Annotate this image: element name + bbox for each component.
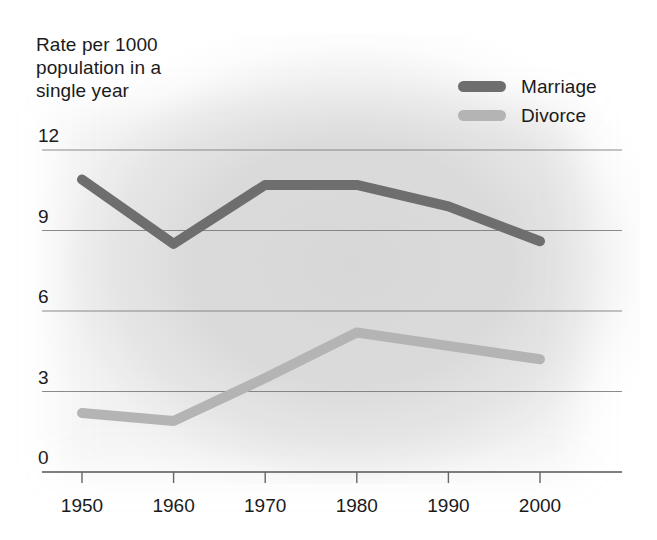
x-tick-label-1960: 1960: [139, 495, 209, 517]
x-tick-label-1950: 1950: [47, 495, 117, 517]
series-line-divorce: [82, 332, 540, 421]
x-tick-label-1980: 1980: [322, 495, 392, 517]
y-tick-label-9: 9: [38, 206, 49, 228]
x-tick-label-1990: 1990: [413, 495, 483, 517]
y-tick-label-12: 12: [38, 125, 59, 147]
y-tick-label-6: 6: [38, 286, 49, 308]
x-axis-tick-marks: [82, 472, 540, 483]
data-series-lines: [82, 180, 540, 422]
y-tick-label-0: 0: [38, 447, 49, 469]
x-tick-label-2000: 2000: [505, 495, 575, 517]
chart-container: Rate per 1000 population in a single yea…: [0, 0, 657, 540]
y-tick-label-3: 3: [38, 367, 49, 389]
chart-plot-svg: [0, 0, 657, 540]
x-tick-label-1970: 1970: [230, 495, 300, 517]
series-line-marriage: [82, 180, 540, 244]
